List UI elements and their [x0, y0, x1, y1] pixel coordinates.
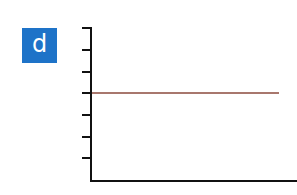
y-axis [82, 27, 91, 182]
line-chart [0, 0, 297, 195]
